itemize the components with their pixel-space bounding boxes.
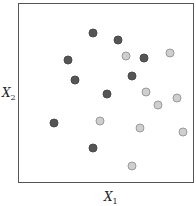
data-point-class-dark — [88, 28, 97, 37]
x-axis-label: X1 — [104, 190, 118, 206]
data-point-class-light — [95, 117, 104, 126]
data-point-class-light — [178, 127, 187, 136]
data-point-class-dark — [88, 144, 97, 153]
data-point-class-dark — [113, 36, 122, 45]
data-point-class-dark — [103, 90, 112, 99]
data-point-class-light — [154, 100, 163, 109]
data-point-class-light — [122, 52, 131, 61]
data-point-class-dark — [71, 75, 80, 84]
data-point-class-light — [141, 88, 150, 97]
x-axis-label-main: X — [104, 190, 113, 204]
data-point-class-dark — [139, 54, 148, 63]
data-point-class-light — [136, 124, 145, 133]
y-axis-label-main: X — [2, 86, 11, 100]
data-point-class-light — [166, 48, 175, 57]
y-axis-label: X2 — [2, 86, 16, 102]
y-axis-label-subscript: 2 — [11, 93, 16, 102]
plot-area — [18, 3, 194, 183]
data-point-class-light — [173, 93, 182, 102]
x-axis-label-subscript: 1 — [113, 197, 118, 206]
data-point-class-dark — [64, 55, 73, 64]
data-point-class-dark — [127, 72, 136, 81]
data-point-class-light — [127, 162, 136, 171]
data-point-class-dark — [50, 118, 59, 127]
